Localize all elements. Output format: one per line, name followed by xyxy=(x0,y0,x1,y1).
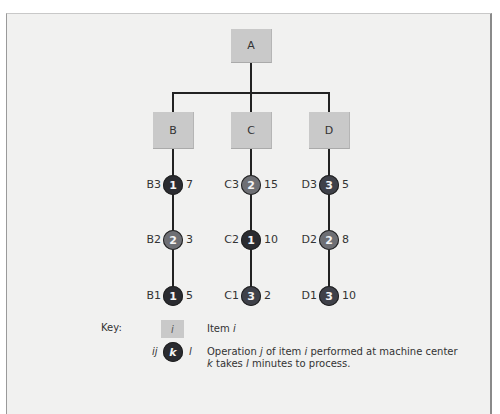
key-op-left: ij xyxy=(152,346,158,357)
machine-circle: 1 xyxy=(163,175,183,195)
operation-name: B2 xyxy=(146,233,161,246)
item-label: B xyxy=(169,124,177,137)
machine-circle: 2 xyxy=(163,230,183,250)
machine-circle: 3 xyxy=(319,286,339,306)
operation-minutes: 5 xyxy=(342,178,349,191)
operation-name: B1 xyxy=(146,289,161,302)
operation-name: D2 xyxy=(302,233,317,246)
operation-minutes: 2 xyxy=(264,289,271,302)
connector-d-down xyxy=(328,92,330,112)
machine-circle: k xyxy=(163,342,183,362)
operation-name: D1 xyxy=(302,289,317,302)
operation-minutes: 3 xyxy=(186,233,193,246)
key-item-symbol: i xyxy=(171,324,174,335)
chain-b xyxy=(172,148,174,296)
key-item-box: i xyxy=(161,320,184,338)
machine-circle: 3 xyxy=(319,175,339,195)
operation-minutes: 15 xyxy=(264,178,278,191)
connector-a-down xyxy=(250,62,252,93)
operation-name: C1 xyxy=(224,289,239,302)
item-box-d: D xyxy=(309,112,350,149)
operation-minutes: 10 xyxy=(342,289,356,302)
item-label: A xyxy=(247,39,255,52)
item-box-c: C xyxy=(231,112,272,149)
key-operation-description: Operation j of item i performed at machi… xyxy=(207,346,458,370)
operation-name: B3 xyxy=(146,178,161,191)
operation-name: C3 xyxy=(224,178,239,191)
machine-circle: 2 xyxy=(319,230,339,250)
connector-c-down xyxy=(250,92,252,112)
item-label: C xyxy=(247,124,255,137)
key-title: Key: xyxy=(101,322,122,333)
machine-circle: 1 xyxy=(163,286,183,306)
connector-b-down xyxy=(172,92,174,112)
operation-minutes: 7 xyxy=(186,178,193,191)
key-item-description: Item i xyxy=(207,323,236,335)
operation-minutes: 8 xyxy=(342,233,349,246)
chain-c xyxy=(250,148,252,296)
operation-name: D3 xyxy=(302,178,317,191)
machine-circle: 1 xyxy=(241,230,261,250)
item-box-a: A xyxy=(231,29,272,63)
machine-circle: 3 xyxy=(241,286,261,306)
item-box-b: B xyxy=(153,112,194,149)
item-label: D xyxy=(325,124,333,137)
operation-name: C2 xyxy=(224,233,239,246)
key-op-right: l xyxy=(189,346,192,357)
machine-circle: 2 xyxy=(241,175,261,195)
operation-minutes: 5 xyxy=(186,289,193,302)
operation-minutes: 10 xyxy=(264,233,278,246)
chain-d xyxy=(328,148,330,296)
